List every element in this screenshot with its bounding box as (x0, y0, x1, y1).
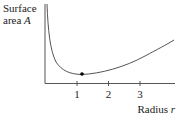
x-tick-label-3: 3 (137, 88, 143, 100)
x-tick-label-1: 1 (74, 88, 80, 100)
x-axis-variable: r (171, 103, 175, 115)
minimum-point (80, 72, 84, 76)
x-axis-label: Radius r (137, 103, 175, 115)
surface-area-curve (47, 4, 174, 75)
x-tick-label-2: 2 (106, 88, 112, 100)
